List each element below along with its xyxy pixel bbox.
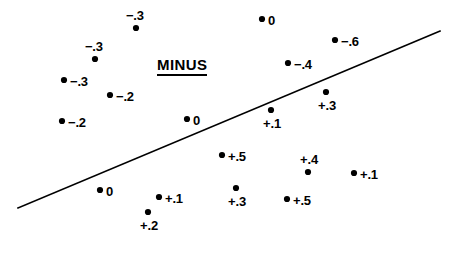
- data-point-label: −.2: [116, 90, 134, 103]
- data-point-dot: [219, 152, 225, 158]
- data-point-label: −.3: [85, 40, 103, 53]
- data-point-dot: [59, 118, 65, 124]
- data-point-dot: [323, 89, 329, 95]
- data-point-dot: [351, 170, 357, 176]
- data-point-label: 0: [268, 14, 275, 27]
- data-point-label: −.4: [294, 58, 312, 71]
- data-point-label: 0: [193, 114, 200, 127]
- data-point-label: +.3: [318, 99, 336, 112]
- scatter-plot-figure: −.30−.3−.6−.3−.4−.2+.3−.20+.1+.5+.4+.10+…: [0, 0, 458, 260]
- data-point-dot: [305, 169, 311, 175]
- data-point-label: −.3: [126, 9, 144, 22]
- data-point-dot: [92, 56, 98, 62]
- data-point-dot: [184, 116, 190, 122]
- data-point-label: +.2: [140, 219, 158, 232]
- data-point-dot: [61, 77, 67, 83]
- data-point-label: +.5: [228, 150, 246, 163]
- data-point-dot: [233, 185, 239, 191]
- data-point-dots: [59, 16, 357, 215]
- plot-canvas: [0, 0, 458, 260]
- data-point-dot: [156, 194, 162, 200]
- data-point-label: +.4: [300, 153, 318, 166]
- data-point-label: +.3: [228, 195, 246, 208]
- data-point-label: +.1: [165, 192, 183, 205]
- data-point-label: −.2: [68, 116, 86, 129]
- data-point-dot: [145, 209, 151, 215]
- data-point-dot: [97, 187, 103, 193]
- data-point-label: +.1: [360, 168, 378, 181]
- data-point-label: 0: [106, 185, 113, 198]
- data-point-label: −.6: [341, 35, 359, 48]
- data-point-dot: [284, 196, 290, 202]
- data-point-label: +.1: [263, 117, 281, 130]
- data-point-dot: [133, 25, 139, 31]
- data-point-dot: [332, 37, 338, 43]
- data-point-label: −.3: [70, 75, 88, 88]
- data-point-label: +.5: [293, 194, 311, 207]
- data-point-dot: [268, 107, 274, 113]
- data-point-dot: [259, 16, 265, 22]
- data-point-dot: [285, 60, 291, 66]
- group-title: MINUS: [157, 56, 207, 76]
- data-point-dot: [107, 92, 113, 98]
